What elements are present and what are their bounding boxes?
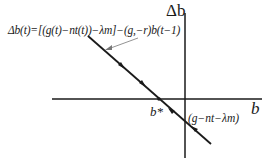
equilibrium-label: b* — [150, 105, 163, 118]
y-axis-label: Δb — [166, 2, 185, 19]
pointer-line — [108, 38, 138, 49]
equilibrium-point — [157, 97, 161, 101]
equation-label: Δb(t)=[(g(t)−nt(t))−λm]−(g,−r)b(t−1) — [8, 25, 180, 37]
x-axis-label: b — [251, 100, 260, 117]
pointer-arrow-icon — [105, 45, 112, 50]
intercept-label: (g−nt−λm) — [188, 113, 239, 125]
